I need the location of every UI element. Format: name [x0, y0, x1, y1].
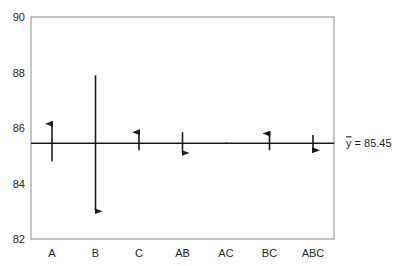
- effects-chart: 8284868890 ABCABACBCABC y = 85.45: [0, 0, 407, 266]
- mean-label: y = 85.45: [346, 137, 392, 149]
- x-tick-label: B: [92, 247, 99, 259]
- y-tick-label: 90: [13, 11, 25, 23]
- y-tick-label: 86: [13, 122, 25, 134]
- mean-value: = 85.45: [352, 137, 392, 149]
- x-tick-label: C: [135, 247, 143, 259]
- x-tick-label: AC: [218, 247, 233, 259]
- x-tick-label: ABC: [302, 247, 325, 259]
- x-tick-label: A: [48, 247, 56, 259]
- y-tick-label: 82: [13, 233, 25, 245]
- y-tick-label: 84: [13, 178, 25, 190]
- x-tick-label: BC: [262, 247, 277, 259]
- x-tick-label: AB: [175, 247, 190, 259]
- x-axis: ABCABACBCABC: [48, 247, 324, 259]
- y-axis: 8284868890: [13, 11, 25, 245]
- y-tick-label: 88: [13, 67, 25, 79]
- plot-frame: [31, 17, 334, 239]
